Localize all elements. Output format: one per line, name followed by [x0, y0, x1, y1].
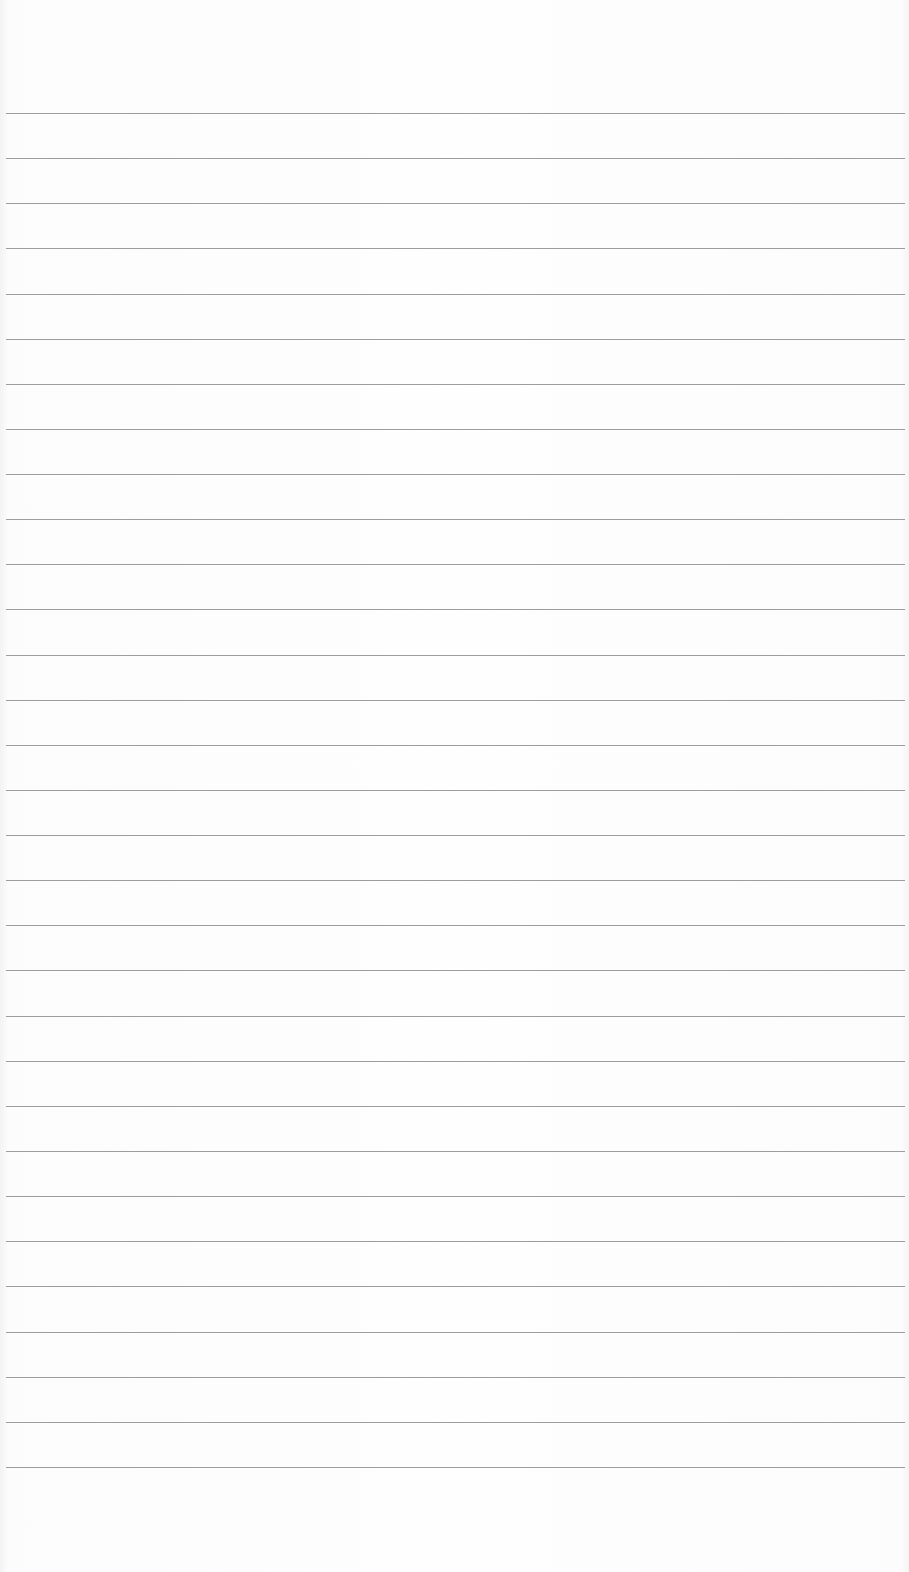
ruled-line [6, 1377, 905, 1378]
ruled-line [6, 1196, 905, 1197]
ruled-line [6, 1332, 905, 1333]
ruled-line [6, 1061, 905, 1062]
ruled-line [6, 970, 905, 971]
ruled-line [6, 1467, 905, 1468]
ruled-line [6, 158, 905, 159]
ruled-line [6, 609, 905, 610]
ruled-line [6, 1151, 905, 1152]
ruled-line [6, 564, 905, 565]
ruled-line [6, 1422, 905, 1423]
ruled-line [6, 925, 905, 926]
ruled-line [6, 248, 905, 249]
ruled-line [6, 745, 905, 746]
ruled-line [6, 429, 905, 430]
ruled-line [6, 519, 905, 520]
ruled-line [6, 474, 905, 475]
ruled-line [6, 203, 905, 204]
ruled-line [6, 1241, 905, 1242]
ruled-line [6, 655, 905, 656]
ruled-line [6, 790, 905, 791]
ruled-line [6, 1106, 905, 1107]
lined-paper-sheet [0, 0, 909, 1572]
ruled-line [6, 1016, 905, 1017]
ruled-line [6, 113, 905, 114]
ruled-line [6, 384, 905, 385]
ruled-line [6, 700, 905, 701]
ruled-line [6, 1286, 905, 1287]
ruled-line [6, 294, 905, 295]
ruled-line [6, 339, 905, 340]
ruled-line [6, 835, 905, 836]
ruled-line [6, 880, 905, 881]
